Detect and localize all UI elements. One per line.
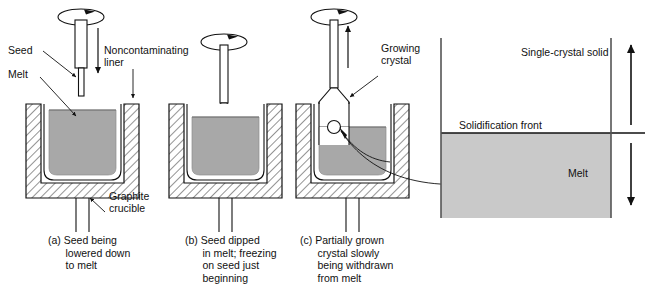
pull-rod-a bbox=[75, 20, 87, 68]
label-graphite-crucible: Graphite crucible bbox=[109, 190, 149, 214]
melt-body-a bbox=[49, 110, 116, 175]
label-seed: Seed bbox=[8, 44, 33, 56]
pull-rod-b bbox=[220, 45, 228, 103]
caption-b: (b) Seed dipped in melt; freezing on see… bbox=[185, 234, 277, 284]
label-single-crystal-solid: Single-crystal solid bbox=[521, 46, 609, 58]
label-detail-melt: Melt bbox=[568, 167, 588, 179]
label-noncontaminating-liner: Noncontaminating liner bbox=[104, 44, 189, 68]
melt-body-b bbox=[192, 117, 259, 175]
pull-rod-c bbox=[330, 20, 338, 88]
label-melt: Melt bbox=[8, 68, 28, 80]
seed-crystal-a bbox=[79, 68, 85, 96]
czochralski-crystal-growth-figure: Seed Melt Noncontaminating liner Graphit… bbox=[0, 0, 656, 291]
label-growing-crystal: Growing crystal bbox=[381, 42, 420, 66]
graphite-leader-line bbox=[90, 198, 105, 212]
label-solidification-front: Solidification front bbox=[459, 119, 542, 131]
caption-c: (c) Partially grown crystal slowly being… bbox=[300, 234, 393, 284]
caption-a: (a) Seed being lowered down to melt bbox=[48, 234, 130, 272]
growing-crystal-leader-line bbox=[350, 76, 378, 97]
seed-leader-line bbox=[43, 51, 76, 77]
